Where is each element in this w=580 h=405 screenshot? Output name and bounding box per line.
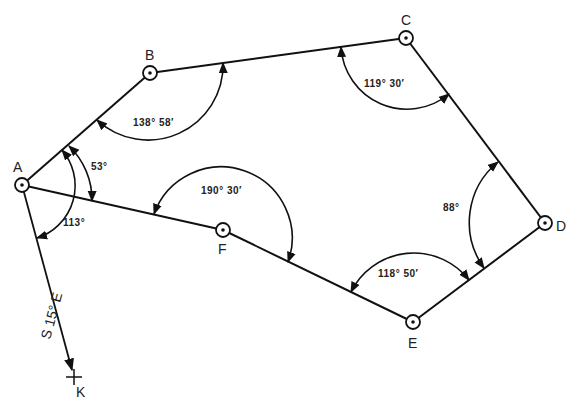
station-d-icon xyxy=(538,216,552,230)
line-bc xyxy=(150,38,406,73)
angle-label-f: 190° 30′ xyxy=(201,185,242,196)
line-ab xyxy=(22,73,150,185)
label-d: D xyxy=(556,218,566,234)
angle-label-b: 138° 58′ xyxy=(133,117,174,128)
label-e: E xyxy=(408,335,417,351)
label-k: K xyxy=(76,384,86,400)
angle-label-d: 88° xyxy=(443,202,460,213)
angle-label-c: 119° 30′ xyxy=(364,78,405,89)
line-fa xyxy=(22,185,223,230)
label-b: B xyxy=(145,47,154,63)
arc-d xyxy=(469,162,498,268)
station-markers xyxy=(15,31,552,329)
label-f: F xyxy=(218,241,227,257)
arc-a-53 xyxy=(69,146,92,201)
station-f-icon xyxy=(216,223,230,237)
traverse-diagram: A B C D E F K S 15° E 53° 113° 138° 58′ … xyxy=(0,0,580,405)
bearing-label: S 15° E xyxy=(37,291,65,341)
angle-label-a-113: 113° xyxy=(63,217,85,228)
label-c: C xyxy=(401,12,411,28)
label-a: A xyxy=(13,159,23,175)
bearing-line-ak xyxy=(22,185,72,370)
station-e-icon xyxy=(406,315,420,329)
station-c-icon xyxy=(399,31,413,45)
reference-point-k xyxy=(66,369,82,385)
station-a-icon xyxy=(15,178,29,192)
angle-label-a-53: 53° xyxy=(91,161,108,172)
angle-label-e: 118° 50′ xyxy=(378,268,419,279)
line-de xyxy=(413,223,545,322)
traverse-lines xyxy=(22,38,545,322)
line-cd xyxy=(406,38,545,223)
station-b-icon xyxy=(143,66,157,80)
